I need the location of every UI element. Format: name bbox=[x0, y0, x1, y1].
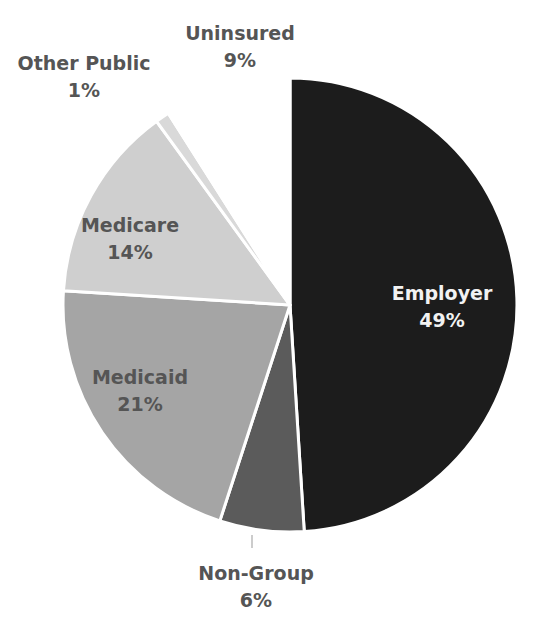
label-medicaid-value: 21% bbox=[92, 391, 188, 418]
label-non-group-value: 6% bbox=[198, 587, 314, 614]
pie-chart: Employer 49% Non-Group 6% Medicaid 21% M… bbox=[0, 0, 533, 634]
label-medicaid: Medicaid 21% bbox=[92, 364, 188, 418]
label-other-public-name: Other Public bbox=[18, 50, 151, 77]
label-non-group: Non-Group 6% bbox=[198, 560, 314, 614]
label-other-public-value: 1% bbox=[18, 77, 151, 104]
label-medicare-value: 14% bbox=[81, 239, 179, 266]
label-uninsured: Uninsured 9% bbox=[185, 20, 295, 74]
label-non-group-name: Non-Group bbox=[198, 560, 314, 587]
label-medicare-name: Medicare bbox=[81, 212, 179, 239]
label-medicare: Medicare 14% bbox=[81, 212, 179, 266]
label-employer-name: Employer bbox=[392, 280, 493, 307]
label-uninsured-value: 9% bbox=[185, 47, 295, 74]
label-uninsured-name: Uninsured bbox=[185, 20, 295, 47]
label-medicaid-name: Medicaid bbox=[92, 364, 188, 391]
label-employer-value: 49% bbox=[392, 307, 493, 334]
label-other-public: Other Public 1% bbox=[18, 50, 151, 104]
label-employer: Employer 49% bbox=[392, 280, 493, 334]
